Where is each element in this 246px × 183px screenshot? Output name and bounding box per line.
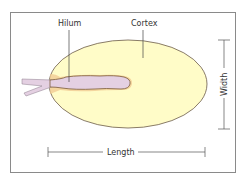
length-label: Length — [107, 148, 135, 157]
lymph-node-diagram: Hilum Cortex Width Length — [0, 0, 246, 183]
hilum-label: Hilum — [58, 19, 82, 28]
cortex-label: Cortex — [131, 19, 158, 28]
width-label: Width — [220, 73, 229, 96]
